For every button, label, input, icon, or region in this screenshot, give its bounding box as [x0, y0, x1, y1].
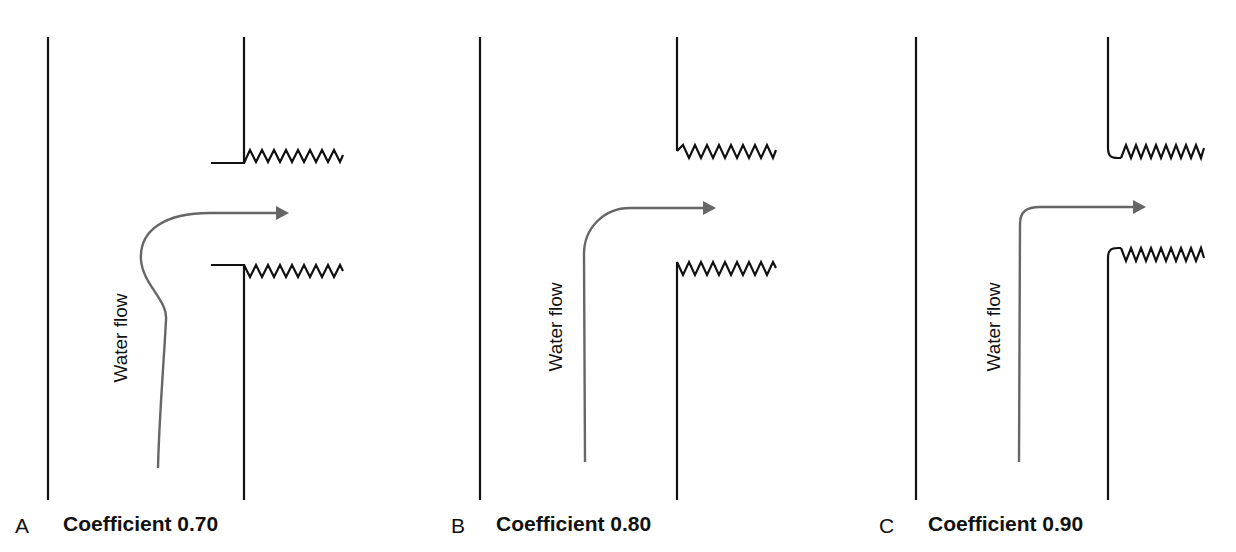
panel-caption-c: Coefficient 0.90: [928, 512, 1083, 536]
panel-caption-a: Coefficient 0.70: [63, 512, 218, 536]
lower-pipe-zigzag: [677, 262, 776, 275]
water-flow-label-b: Water flow: [545, 279, 567, 375]
panel-a: [48, 37, 343, 500]
water-flow-label-c: Water flow: [983, 279, 1005, 375]
water-flow-arrow: [1019, 207, 1133, 462]
arrowhead-icon: [276, 206, 289, 220]
lower-wall-rounded: [1108, 248, 1121, 500]
panel-letter-a: A: [15, 514, 29, 538]
panel-letter-c: C: [879, 514, 894, 538]
water-flow-arrow: [584, 208, 703, 462]
upper-wall-rounded: [1108, 37, 1121, 158]
water-flow-label-a: Water flow: [110, 290, 132, 386]
upper-pipe-zigzag: [1121, 145, 1204, 158]
upper-pipe-zigzag: [244, 150, 343, 163]
panel-letter-b: B: [451, 514, 465, 538]
upper-pipe-zigzag: [677, 145, 776, 158]
panel-b: [480, 37, 776, 500]
panel-c: [916, 37, 1204, 500]
arrowhead-icon: [703, 201, 716, 215]
inlet-coefficient-diagram: [0, 0, 1236, 552]
water-flow-arrow: [141, 213, 276, 468]
lower-pipe-zigzag: [244, 265, 343, 277]
lower-wall-with-flange: [211, 265, 244, 500]
panel-caption-b: Coefficient 0.80: [496, 512, 651, 536]
lower-pipe-zigzag: [1121, 248, 1204, 261]
arrowhead-icon: [1133, 200, 1146, 214]
upper-wall-with-flange: [211, 37, 244, 163]
